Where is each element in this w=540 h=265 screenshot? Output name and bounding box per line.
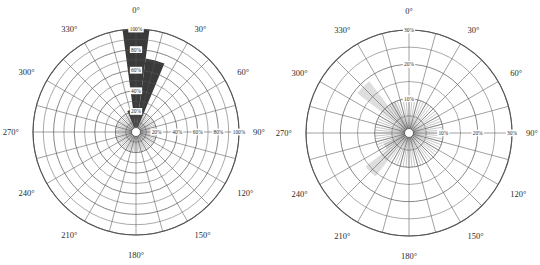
radial-axis-label: 80% [213, 129, 223, 135]
polar-origin-hub [132, 128, 141, 137]
right-polar-chart: 0°30°60°90°120°150°180°210°240°270°300°3… [272, 0, 540, 265]
figure-canvas: 0°30°60°90°120°150°180°210°240°270°300°3… [0, 0, 540, 265]
grid-spoke-fine [412, 137, 429, 161]
angle-tick-label: 210° [61, 230, 77, 240]
angle-tick-label: 0° [132, 5, 140, 15]
grid-spoke-fine [413, 113, 437, 130]
radial-axis-label: 40% [172, 129, 182, 135]
radial-tick-label: 60% [131, 67, 141, 73]
radial-axis-label: 100% [233, 129, 246, 135]
angle-tick-label: 300° [19, 67, 35, 77]
angle-tick-label: 60° [237, 67, 249, 77]
radial-tick-label: 30% [404, 27, 414, 33]
angle-tick-label: 150° [468, 231, 484, 241]
angle-tick-label: 330° [334, 25, 350, 35]
radial-tick-label: 20% [404, 61, 414, 67]
angle-tick-label: 30° [195, 24, 207, 34]
radial-axis-label: 60% [193, 129, 203, 135]
angle-tick-label: 240° [292, 189, 308, 199]
grid-spoke-fine [413, 136, 437, 153]
left-polar-rose-svg: 0°30°60°90°120°150°180°210°240°270°300°3… [0, 0, 268, 265]
right-polar-rose-radial-labels-horizontal: 10%20%30% [437, 130, 518, 137]
angle-tick-label: 90° [526, 128, 538, 138]
angle-tick-label: 0° [405, 6, 413, 16]
left-polar-chart: 0°30°60°90°120°150°180°210°240°270°300°3… [0, 0, 268, 265]
radial-tick-label: 10% [404, 96, 414, 102]
polar-origin-hub [405, 129, 414, 138]
angle-tick-label: 210° [334, 231, 350, 241]
right-polar-rose-svg: 0°30°60°90°120°150°180°210°240°270°300°3… [272, 0, 540, 265]
angle-tick-label: 120° [510, 189, 526, 199]
radial-tick-label: 100% [130, 26, 143, 32]
radial-axis-label: 30% [507, 130, 517, 136]
angle-tick-label: 30° [468, 25, 480, 35]
angle-tick-label: 300° [292, 68, 308, 78]
angle-tick-label: 120° [237, 188, 253, 198]
angle-tick-label: 90° [253, 127, 265, 137]
radial-axis-label: 20% [473, 130, 483, 136]
radial-tick-label: 20% [131, 108, 141, 114]
angle-tick-label: 240° [19, 188, 35, 198]
radial-axis-label: 10% [438, 130, 448, 136]
angle-tick-label: 330° [61, 24, 77, 34]
angle-tick-label: 270° [3, 127, 19, 137]
angle-tick-label: 180° [401, 251, 417, 261]
angle-tick-label: 270° [276, 128, 292, 138]
angle-tick-label: 180° [128, 250, 144, 260]
radial-axis-label: 20% [152, 129, 162, 135]
grid-spoke-fine [412, 105, 429, 129]
radial-tick-label: 80% [131, 47, 141, 53]
angle-tick-label: 150° [195, 230, 211, 240]
angle-tick-label: 60° [510, 68, 522, 78]
radial-tick-label: 40% [131, 88, 141, 94]
